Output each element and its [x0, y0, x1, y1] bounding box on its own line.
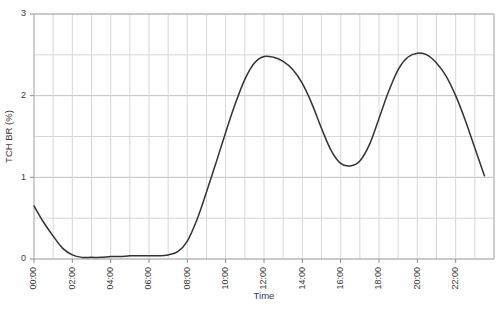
x-tick-label: 14:00	[297, 267, 307, 290]
y-tick-label: 1	[21, 172, 26, 182]
chart-background	[0, 0, 501, 311]
x-tick-label: 00:00	[28, 267, 38, 290]
x-tick-label: 08:00	[182, 267, 192, 290]
y-axis-title: TCH BR (%)	[3, 110, 14, 163]
x-tick-label: 02:00	[67, 267, 77, 290]
y-tick-label: 2	[21, 90, 26, 100]
x-tick-label: 10:00	[220, 267, 230, 290]
x-tick-label: 12:00	[258, 267, 268, 290]
x-tick-label: 20:00	[412, 267, 422, 290]
x-tick-label: 04:00	[105, 267, 115, 290]
x-axis-title: Time	[254, 290, 275, 301]
line-chart: 00:0002:0004:0006:0008:0010:0012:0014:00…	[0, 0, 501, 311]
x-tick-label: 06:00	[143, 267, 153, 290]
x-tick-label: 16:00	[335, 267, 345, 290]
y-tick-label: 0	[21, 253, 26, 263]
x-tick-label: 22:00	[450, 267, 460, 290]
y-tick-label: 3	[21, 8, 26, 18]
chart-container: 00:0002:0004:0006:0008:0010:0012:0014:00…	[0, 0, 501, 311]
x-tick-label: 18:00	[373, 267, 383, 290]
